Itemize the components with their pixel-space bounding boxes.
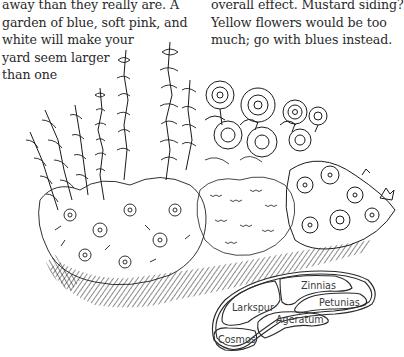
- ageratum-drawing: [197, 156, 295, 255]
- cosmos-drawing: [39, 178, 206, 285]
- label-petunias: Petunias: [319, 297, 360, 308]
- label-cosmos: Cosmos: [218, 334, 256, 345]
- petunias-drawing: [286, 161, 395, 249]
- label-ageratum: Ageratum: [276, 314, 324, 325]
- label-larkspur: Larkspur: [232, 302, 274, 313]
- larkspur-drawing: [26, 42, 196, 210]
- label-zinnias: Zinnias: [301, 280, 336, 291]
- zinnias-drawing: [205, 81, 327, 157]
